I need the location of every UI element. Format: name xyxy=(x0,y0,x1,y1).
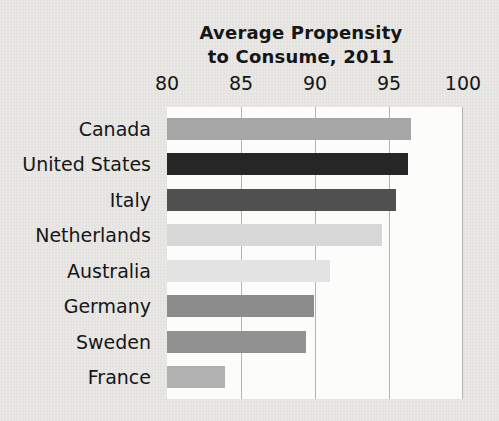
category-labels: CanadaUnited StatesItalyNetherlandsAustr… xyxy=(0,107,159,399)
bar-germany xyxy=(167,295,314,317)
bar-chart-figure: Average Propensity to Consume, 2011 8085… xyxy=(0,0,499,421)
bar-sweden xyxy=(167,331,306,353)
bar-row-united-states xyxy=(167,147,463,183)
bar-row-italy xyxy=(167,182,463,218)
category-label-sweden: Sweden xyxy=(76,331,151,353)
bar-row-germany xyxy=(167,289,463,325)
label-row-sweden: Sweden xyxy=(0,324,159,360)
bar-row-france xyxy=(167,360,463,396)
label-row-france: France xyxy=(0,360,159,396)
bar-france xyxy=(167,366,225,388)
bar-row-netherlands xyxy=(167,218,463,254)
x-tick-label-90: 90 xyxy=(303,71,327,95)
bar-row-canada xyxy=(167,111,463,147)
bar-series xyxy=(167,107,463,399)
category-label-germany: Germany xyxy=(64,295,151,317)
bar-canada xyxy=(167,118,411,140)
bar-row-australia xyxy=(167,253,463,289)
category-label-united-states: United States xyxy=(22,153,151,175)
chart-title-line-2: to Consume, 2011 xyxy=(200,45,403,69)
x-tick-label-100: 100 xyxy=(445,71,481,95)
bar-netherlands xyxy=(167,224,382,246)
chart-title-line-1: Average Propensity xyxy=(200,21,403,45)
x-tick-label-95: 95 xyxy=(377,71,401,95)
bar-united-states xyxy=(167,153,408,175)
bar-row-sweden xyxy=(167,324,463,360)
category-label-canada: Canada xyxy=(79,118,151,140)
x-tick-label-85: 85 xyxy=(229,71,253,95)
chart-title: Average Propensity to Consume, 2011 xyxy=(200,21,403,69)
label-row-netherlands: Netherlands xyxy=(0,218,159,254)
x-axis-tick-labels: 80859095100 xyxy=(167,71,463,95)
category-label-netherlands: Netherlands xyxy=(35,224,151,246)
label-row-italy: Italy xyxy=(0,182,159,218)
category-label-australia: Australia xyxy=(67,260,151,282)
label-row-united-states: United States xyxy=(0,147,159,183)
label-row-canada: Canada xyxy=(0,111,159,147)
bar-australia xyxy=(167,260,330,282)
x-tick-label-80: 80 xyxy=(155,71,179,95)
label-row-germany: Germany xyxy=(0,289,159,325)
category-label-italy: Italy xyxy=(110,189,151,211)
label-row-australia: Australia xyxy=(0,253,159,289)
category-label-france: France xyxy=(88,366,151,388)
bar-italy xyxy=(167,189,396,211)
